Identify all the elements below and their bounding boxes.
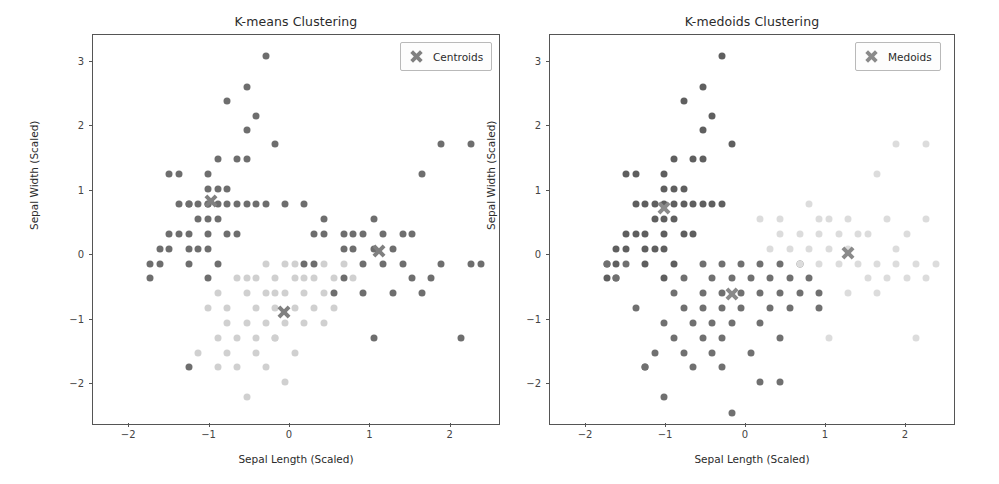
scatter-point — [253, 201, 260, 208]
scatter-point — [185, 364, 192, 371]
medoid-marker — [654, 198, 674, 218]
scatter-point — [845, 290, 852, 297]
scatter-point — [671, 290, 678, 297]
scatter-point — [661, 245, 668, 252]
scatter-point — [311, 231, 318, 238]
scatter-point — [320, 260, 327, 267]
scatter-point — [883, 216, 890, 223]
scatter-point — [282, 260, 289, 267]
scatter-point — [728, 319, 735, 326]
scatter-point — [806, 245, 813, 252]
scatter-point — [699, 201, 706, 208]
scatter-point — [767, 275, 774, 282]
scatter-point — [767, 305, 774, 312]
scatter-point — [757, 379, 764, 386]
yaxis-tick-mark — [546, 383, 550, 384]
scatter-point — [757, 216, 764, 223]
scatter-point — [690, 364, 697, 371]
scatter-point — [719, 305, 726, 312]
scatter-point — [311, 260, 318, 267]
scatter-point — [699, 126, 706, 133]
yaxis-tick-mark — [546, 61, 550, 62]
scatter-point — [796, 231, 803, 238]
scatter-point — [709, 201, 716, 208]
scatter-point — [176, 201, 183, 208]
scatter-point — [806, 275, 813, 282]
scatter-point — [233, 364, 240, 371]
scatter-points-kmeans — [93, 35, 499, 424]
scatter-point — [301, 260, 308, 267]
scatter-points-kmedoids — [550, 35, 954, 424]
scatter-point — [350, 231, 357, 238]
scatter-point — [893, 245, 900, 252]
scatter-point — [389, 245, 396, 252]
scatter-point — [350, 275, 357, 282]
scatter-point — [214, 364, 221, 371]
scatter-point — [243, 156, 250, 163]
scatter-point — [291, 349, 298, 356]
scatter-point — [389, 290, 396, 297]
scatter-point — [776, 231, 783, 238]
scatter-point — [331, 290, 338, 297]
scatter-point — [855, 231, 862, 238]
scatter-point — [699, 290, 706, 297]
scatter-point — [204, 245, 211, 252]
scatter-point — [623, 260, 630, 267]
xaxis-tick-label: 1 — [366, 429, 372, 440]
scatter-point — [253, 275, 260, 282]
yaxis-tick-mark — [89, 383, 93, 384]
scatter-point — [243, 290, 250, 297]
scatter-point — [642, 231, 649, 238]
scatter-point — [370, 334, 377, 341]
scatter-point — [623, 231, 630, 238]
xaxis-tick-label: 0 — [742, 429, 748, 440]
xaxis-label-kmedoids: Sepal Length (Scaled) — [549, 453, 955, 465]
scatter-point — [233, 201, 240, 208]
yaxis-tick-label: −2 — [58, 378, 84, 389]
scatter-point — [224, 201, 231, 208]
scatter-point — [253, 305, 260, 312]
scatter-point — [776, 216, 783, 223]
xaxis-tick-mark — [289, 423, 290, 427]
xaxis-tick-label: 0 — [286, 429, 292, 440]
scatter-point — [623, 171, 630, 178]
legend-kmedoids[interactable]: Medoids — [855, 42, 941, 71]
scatter-point — [680, 275, 687, 282]
scatter-point — [214, 290, 221, 297]
scatter-point — [719, 364, 726, 371]
scatter-point — [272, 290, 279, 297]
scatter-point — [320, 319, 327, 326]
scatter-point — [874, 171, 881, 178]
yaxis-tick-label: 1 — [58, 184, 84, 195]
scatter-point — [903, 231, 910, 238]
centroid-marker — [369, 241, 389, 261]
scatter-point — [923, 141, 930, 148]
scatter-point — [826, 334, 833, 341]
scatter-point — [757, 290, 764, 297]
yaxis-tick-label: 2 — [58, 120, 84, 131]
scatter-point — [438, 260, 445, 267]
panel-kmedoids: K-medoids Clustering −2−1012−2−10123 Sep… — [457, 0, 999, 484]
scatter-point — [438, 141, 445, 148]
scatter-point — [185, 231, 192, 238]
scatter-point — [214, 216, 221, 223]
scatter-point — [243, 319, 250, 326]
scatter-point — [301, 290, 308, 297]
yaxis-tick-label: 0 — [515, 249, 541, 260]
scatter-point — [932, 260, 939, 267]
xaxis-tick-label: 2 — [902, 429, 908, 440]
scatter-point — [642, 201, 649, 208]
xaxis-tick-mark — [905, 423, 906, 427]
scatter-point — [671, 185, 678, 192]
scatter-point — [757, 319, 764, 326]
scatter-point — [409, 275, 416, 282]
scatter-point — [291, 260, 298, 267]
scatter-point — [253, 349, 260, 356]
xaxis-tick-label: −1 — [658, 429, 673, 440]
scatter-point — [776, 290, 783, 297]
scatter-point — [680, 305, 687, 312]
xaxis-tick-label: −1 — [201, 429, 216, 440]
scatter-point — [399, 231, 406, 238]
scatter-point — [418, 171, 425, 178]
scatter-point — [262, 290, 269, 297]
